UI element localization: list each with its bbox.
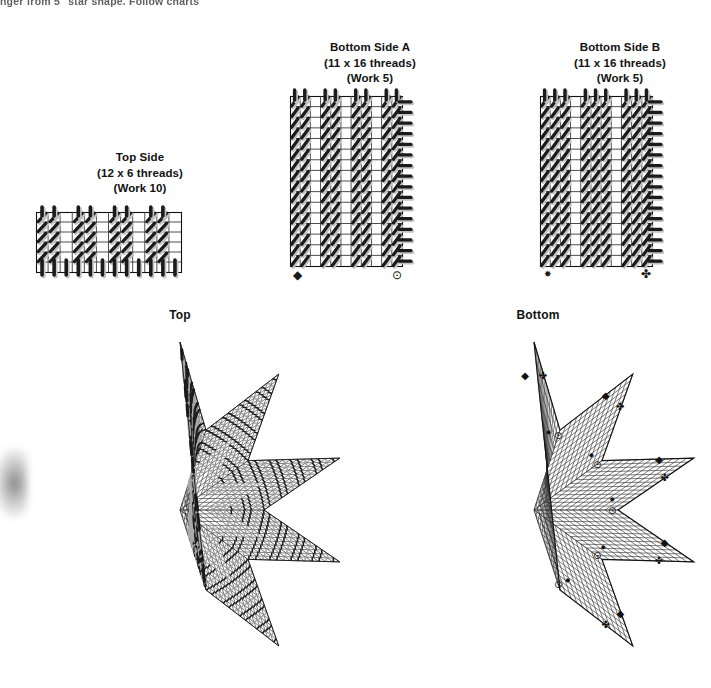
symbol-glyph: ◆ [293, 268, 302, 282]
marker-plus-cross: ✤ [655, 555, 663, 566]
symbol-glyph: ✸ [544, 269, 552, 279]
marker-circle-dot: ⊙ [554, 579, 562, 590]
marker-small-asterisk: ✸ [546, 429, 552, 437]
marker-filled-diamond: ◆ [661, 537, 669, 548]
marker-circle-dot-bsa: ⊙ [392, 269, 402, 281]
assembly-diagram-bottom-star: ◆✤⊙✸◆✤⊙✸◆✤⊙✸◆✤⊙✸◆✤⊙✸ [358, 330, 710, 686]
marker-filled-diamond: ◆ [616, 608, 624, 619]
assembly-title-bottom: Bottom [478, 308, 598, 322]
chart-grid-bottom-side-a [290, 96, 420, 276]
symbol-glyph: ✤ [641, 267, 651, 281]
marker-plus-cross: ✤ [660, 472, 668, 483]
chart-title-bottom-side-a: Bottom Side A [260, 40, 480, 56]
chart-work-bottom-side-a: (Work 5) [260, 71, 480, 87]
marker-circle-dot: ⊙ [608, 505, 616, 516]
symbol-glyph: ⊙ [392, 268, 402, 282]
chart-caption-bottom-side-b: Bottom Side B (11 x 16 threads) (Work 5) [510, 40, 711, 87]
marker-small-asterisk: ✸ [588, 452, 594, 460]
marker-plus-cross: ✤ [602, 619, 610, 630]
marker-filled-diamond: ◆ [655, 454, 663, 465]
marker-plus-cross: ✤ [539, 370, 547, 381]
chart-work-top-side: (Work 10) [55, 181, 225, 197]
marker-plus-cross-bsb: ✤ [641, 268, 651, 280]
chart-caption-top-side: Top Side (12 x 6 threads) (Work 10) [55, 150, 225, 197]
marker-small-asterisk: ✸ [609, 496, 615, 504]
chart-threads-bottom-side-a: (11 x 16 threads) [260, 56, 480, 72]
chart-title-top-side: Top Side [55, 150, 225, 166]
marker-filled-diamond: ◆ [521, 370, 529, 381]
chart-grid-bottom-side-b [540, 96, 670, 276]
marker-filled-diamond-bsa: ◆ [293, 269, 302, 281]
marker-circle-dot: ⊙ [593, 459, 601, 470]
chart-caption-bottom-side-a: Bottom Side A (11 x 16 threads) (Work 5) [260, 40, 480, 87]
marker-circle-dot: ⊙ [554, 430, 562, 441]
chart-threads-top-side: (12 x 6 threads) [55, 166, 225, 182]
assembly-diagram-top-star [2, 330, 358, 686]
marker-small-asterisk: ✸ [600, 544, 606, 552]
marker-plus-cross: ✤ [616, 401, 624, 412]
chart-threads-bottom-side-b: (11 x 16 threads) [510, 56, 711, 72]
instruction-text: nger from 5" star shape. Follow charts [0, 0, 420, 7]
chart-grid-top-side [36, 212, 186, 284]
marker-filled-diamond: ◆ [602, 390, 610, 401]
marker-circle-dot: ⊙ [593, 550, 601, 561]
assembly-title-top: Top [120, 308, 240, 322]
marker-small-asterisk: ✸ [565, 577, 571, 585]
marker-small-asterisk-bsb: ✸ [544, 270, 552, 279]
chart-title-bottom-side-b: Bottom Side B [510, 40, 711, 56]
chart-work-bottom-side-b: (Work 5) [510, 71, 711, 87]
